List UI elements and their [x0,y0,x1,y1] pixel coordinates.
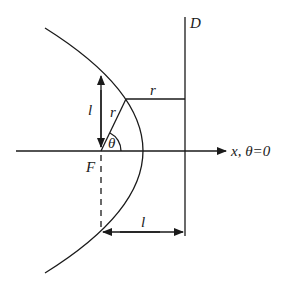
directrix-label: D [189,15,201,31]
angle-label: θ [108,135,116,151]
axis-label: x, θ=0 [230,143,271,159]
semi-latus-horizontal-label: l [141,214,145,230]
parabola-diagram: D F x, θ=0 θ r r l l [0,0,290,287]
semi-latus-vertical-label: l [88,102,92,118]
focus-label: F [85,159,96,175]
radius-ray-label: r [110,104,116,120]
radius-directrix-label: r [150,82,156,98]
